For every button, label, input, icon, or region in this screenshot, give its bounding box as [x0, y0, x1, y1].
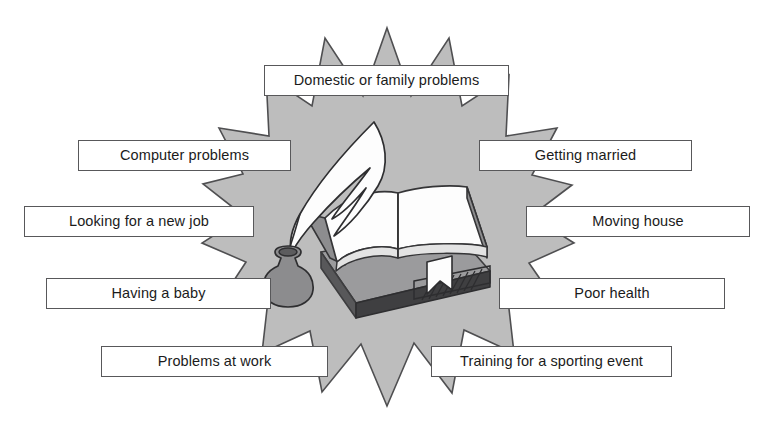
label-box-looking-for-a-new-job[interactable]: Looking for a new job	[24, 206, 254, 237]
label-box-getting-married[interactable]: Getting married	[479, 140, 692, 171]
label-text: Computer problems	[120, 148, 249, 164]
label-box-poor-health[interactable]: Poor health	[499, 278, 725, 309]
figure-canvas: Domestic or family problems Computer pro…	[0, 0, 774, 437]
label-text: Moving house	[592, 214, 683, 230]
label-text: Looking for a new job	[69, 214, 209, 230]
label-text: Problems at work	[158, 354, 272, 370]
label-text: Having a baby	[112, 286, 206, 302]
label-box-training-for-a-sporting-event[interactable]: Training for a sporting event	[431, 346, 672, 377]
label-box-moving-house[interactable]: Moving house	[526, 206, 750, 237]
label-text: Training for a sporting event	[460, 354, 643, 370]
label-box-problems-at-work[interactable]: Problems at work	[101, 346, 328, 377]
label-box-domestic-or-family-problems[interactable]: Domestic or family problems	[264, 65, 509, 96]
label-text: Domestic or family problems	[294, 73, 480, 89]
label-box-computer-problems[interactable]: Computer problems	[78, 140, 291, 171]
label-box-having-a-baby[interactable]: Having a baby	[46, 278, 271, 309]
label-text: Getting married	[535, 148, 636, 164]
label-text: Poor health	[574, 286, 649, 302]
